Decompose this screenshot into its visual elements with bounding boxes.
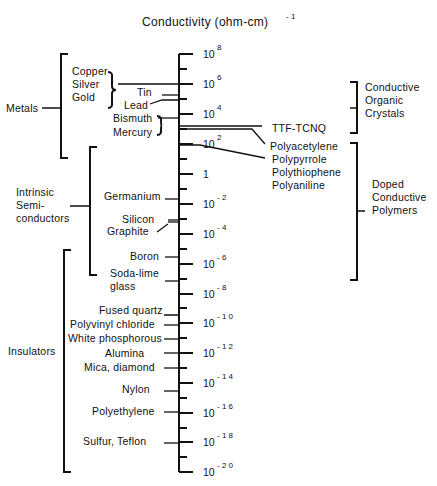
material-label: Sulfur, Teflon xyxy=(83,435,146,447)
material-label: White phosphorous xyxy=(68,332,162,344)
chart-title: Conductivity (ohm-cm) - 1 xyxy=(142,12,296,29)
material-label: Polyacetylene xyxy=(270,140,338,152)
material-label: Lead xyxy=(124,99,148,111)
tick-label: 10 xyxy=(203,347,215,359)
tick-label: 10 xyxy=(203,407,215,419)
material-label: Polythiophene xyxy=(272,166,341,178)
category-label: Polymers xyxy=(372,204,417,216)
tick-exponent: - 1 0 xyxy=(217,312,234,321)
tick-label: 10 xyxy=(203,436,215,448)
category-label: Crystals xyxy=(365,107,405,119)
leader-line xyxy=(150,100,179,104)
category-bracket xyxy=(64,250,71,472)
material-label: Polyethylene xyxy=(92,405,155,417)
tick-exponent: - 1 6 xyxy=(217,402,234,411)
material-label: Silver xyxy=(72,78,100,90)
material-label: Nylon xyxy=(122,383,150,395)
tick-label: 10 xyxy=(203,228,215,240)
tick-label: 10 xyxy=(203,466,215,478)
material-label: Polypyrrole xyxy=(272,153,327,165)
category-label: Intrinsic xyxy=(16,186,54,198)
material-label: Mercury xyxy=(113,126,153,138)
leader-line xyxy=(179,145,265,158)
category-label: Semi- xyxy=(16,199,45,211)
category-label: Doped xyxy=(372,178,404,190)
curly-brace xyxy=(157,116,162,135)
material-label: glass xyxy=(110,280,136,292)
tick-exponent: - 1 8 xyxy=(217,431,234,440)
material-label: Bismuth xyxy=(113,112,152,124)
material-label: Polyaniline xyxy=(272,179,325,191)
tick-exponent: 6 xyxy=(217,73,222,82)
tick-label: 10 xyxy=(203,78,215,90)
tick-exponent: - 4 xyxy=(217,223,227,232)
tick-label: 10 xyxy=(203,108,215,120)
leader-line xyxy=(164,309,179,315)
material-label: Polyvinyl chloride xyxy=(70,318,155,330)
material-label: Copper xyxy=(72,65,108,77)
material-label: Germanium xyxy=(104,190,161,202)
tick-label: 10 xyxy=(203,258,215,270)
axis-ticks: 108106104102110- 210- 410- 610- 810- 1 0… xyxy=(179,43,234,478)
material-label: Mica, diamond xyxy=(84,361,155,373)
category-label: Metals xyxy=(6,102,38,114)
tick-exponent: 8 xyxy=(217,43,222,52)
tick-label: 10 xyxy=(203,198,215,210)
tick-exponent: - 6 xyxy=(217,253,227,262)
category-bracket xyxy=(350,143,357,280)
material-label: Silicon xyxy=(122,213,154,225)
category-bracket xyxy=(90,147,97,275)
tick-exponent: - 8 xyxy=(217,283,227,292)
material-label: Gold xyxy=(72,91,95,103)
tick-label: 10 xyxy=(203,48,215,60)
material-label: Boron xyxy=(130,250,159,262)
material-label: Graphite xyxy=(107,225,149,237)
material-label: Soda-lime xyxy=(110,267,159,279)
material-label: Fused quartz xyxy=(99,304,163,316)
tick-exponent: - 1 2 xyxy=(217,342,234,351)
category-bracket xyxy=(61,54,68,158)
category-label: Conductive xyxy=(372,191,427,203)
material-label: Tin xyxy=(137,86,152,98)
category-label: Organic xyxy=(365,94,403,106)
material-label: TTF-TCNQ xyxy=(272,122,326,134)
leader-line xyxy=(179,129,265,144)
tick-label: 10 xyxy=(203,288,215,300)
category-label: Insulators xyxy=(8,345,56,357)
category-label: Conductive xyxy=(365,81,420,93)
category-label: conductors xyxy=(16,212,69,224)
title-text: Conductivity (ohm-cm) xyxy=(142,15,268,29)
tick-label: 10 xyxy=(203,377,215,389)
tick-exponent: - 1 4 xyxy=(217,372,234,381)
curly-brace xyxy=(108,72,116,108)
tick-exponent: - 2 xyxy=(217,193,227,202)
material-labels: CopperSilverGoldTinLeadBismuthMercuryTTF… xyxy=(68,65,341,447)
tick-exponent: 4 xyxy=(217,103,222,112)
title-exponent: - 1 xyxy=(286,12,296,21)
tick-exponent: - 2 0 xyxy=(217,461,234,470)
material-label: Alumina xyxy=(105,347,144,359)
conductivity-scale-diagram: Conductivity (ohm-cm) - 1 10810610410211… xyxy=(0,0,437,486)
tick-label: 10 xyxy=(203,317,215,329)
tick-label: 1 xyxy=(203,168,209,180)
leader-line xyxy=(157,224,168,232)
tick-exponent: 2 xyxy=(217,133,222,142)
